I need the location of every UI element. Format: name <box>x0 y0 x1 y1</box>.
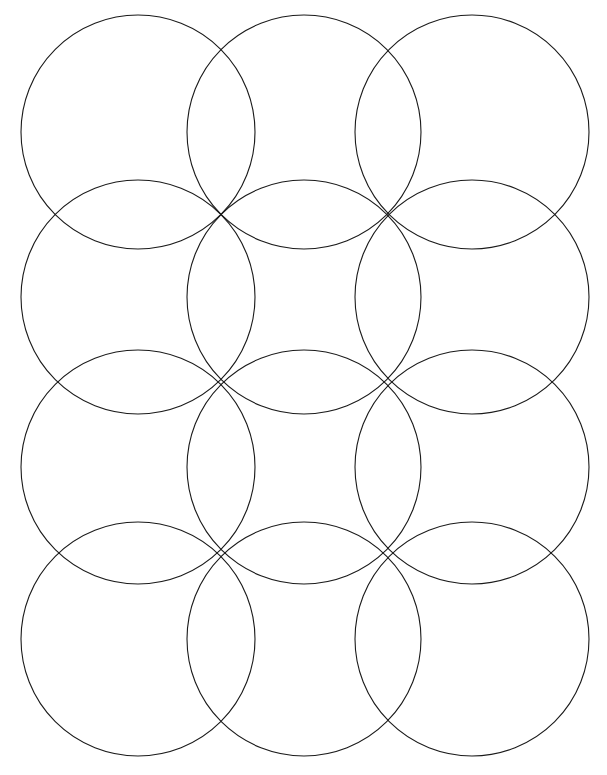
circle-lattice-figure: Overlapping Circle Lattice Pattern <box>0 0 607 775</box>
figure-background <box>0 0 607 775</box>
